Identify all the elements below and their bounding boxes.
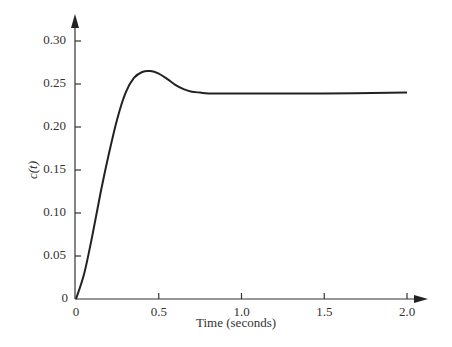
x-tick-label: 2.0 [387,304,427,320]
x-axis-arrow-icon [414,295,428,303]
response-curve [76,71,407,299]
y-tick-label: 0.05 [26,247,66,263]
x-tick-label: 1.5 [304,304,344,320]
x-tick-label: 0.5 [139,304,179,320]
y-tick-label: 0.20 [26,118,66,134]
y-tick-label: 0.25 [26,75,66,91]
x-tick-label: 0 [56,304,96,320]
y-axis-arrow-icon [71,14,79,28]
y-axis-label: c(t) [25,161,41,179]
x-axis-label: Time (seconds) [196,315,276,331]
y-tick-label: 0.30 [26,32,66,48]
y-tick-label: 0.10 [26,204,66,220]
